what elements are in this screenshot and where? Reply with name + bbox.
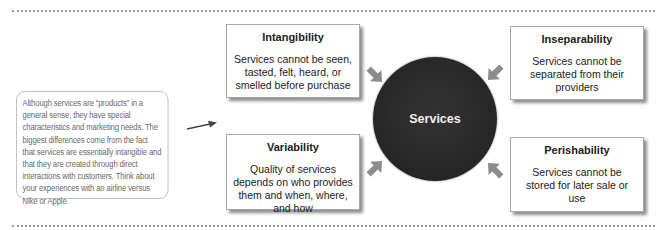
perishability-desc: Services cannot be stored for later sale… [511, 166, 643, 205]
note-pointer-arrow-icon [186, 120, 218, 132]
services-label: Services [409, 112, 460, 126]
inseparability-desc: Services cannot be separated from their … [511, 55, 643, 94]
services-circle: Services [373, 57, 497, 181]
variability-title: Variability [227, 141, 359, 153]
inseparability-box: Inseparability Services cannot be separa… [510, 26, 644, 100]
inseparability-title: Inseparability [511, 33, 643, 45]
arrow-up-left-icon [482, 157, 508, 183]
intangibility-title: Intangibility [227, 31, 359, 43]
intro-note: Although services are “products” in a ge… [16, 91, 169, 199]
variability-box: Variability Quality of services depends … [226, 134, 360, 210]
intangibility-desc: Services cannot be seen, tasted, felt, h… [227, 53, 359, 92]
arrow-down-left-icon [482, 60, 508, 86]
arrow-down-right-icon [362, 62, 388, 88]
variability-desc: Quality of services depends on who provi… [227, 163, 359, 215]
arrow-up-right-icon [362, 155, 388, 181]
intangibility-box: Intangibility Services cannot be seen, t… [226, 24, 360, 98]
perishability-box: Perishability Services cannot be stored … [510, 137, 644, 212]
bottom-divider [12, 225, 655, 227]
top-divider [12, 10, 655, 12]
perishability-title: Perishability [511, 144, 643, 156]
